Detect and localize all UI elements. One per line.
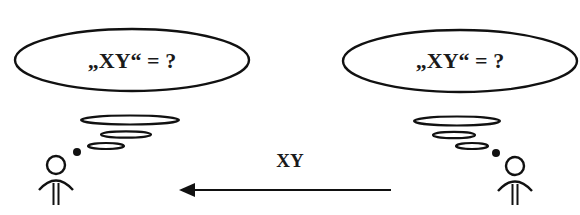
right-thought-dot — [492, 149, 500, 157]
left-thought-trail-2 — [101, 131, 151, 137]
left-thought-text: „XY“ = ? — [88, 48, 176, 73]
left-thought-trail-3 — [88, 143, 124, 149]
right-thought-text: „XY“ = ? — [416, 48, 504, 73]
arrowhead — [179, 183, 195, 197]
right-thought-group: „XY“ = ? — [343, 30, 577, 157]
message-label: XY — [276, 150, 304, 171]
right-thought-trail-3 — [456, 143, 488, 149]
right-person-icon — [498, 157, 532, 205]
right-thought-trail-1 — [414, 117, 500, 126]
right-thought-trail-2 — [433, 132, 475, 138]
left-person-icon — [39, 156, 73, 205]
left-thought-group: „XY“ = ? — [15, 29, 249, 156]
left-thought-dot — [73, 148, 81, 156]
communication-diagram: „XY“ = ? „XY“ = ? XY — [0, 0, 580, 215]
left-thought-trail-1 — [81, 116, 179, 125]
message-arrow-group: XY — [179, 150, 391, 197]
